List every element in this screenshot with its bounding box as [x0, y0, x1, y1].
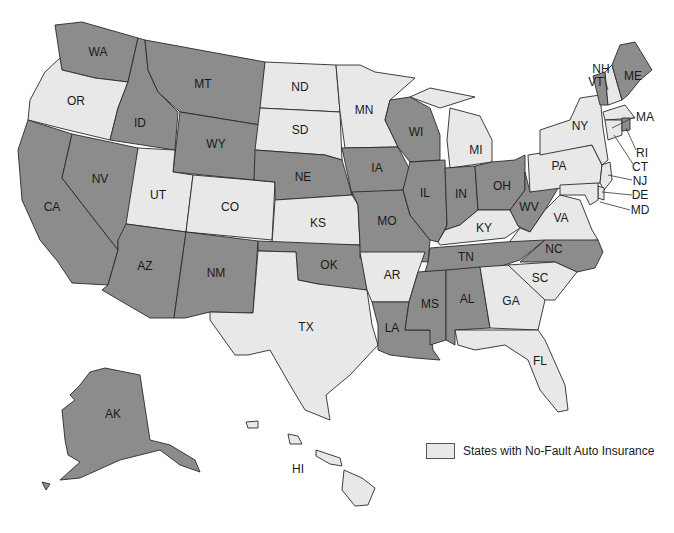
svg-text:MN: MN	[355, 103, 374, 117]
svg-text:WI: WI	[409, 125, 424, 139]
svg-text:WA: WA	[89, 45, 108, 59]
svg-text:NY: NY	[572, 119, 589, 133]
svg-text:CO: CO	[221, 200, 239, 214]
state-DE[interactable]	[598, 186, 604, 200]
svg-text:AR: AR	[384, 268, 401, 282]
svg-text:IL: IL	[420, 186, 430, 200]
svg-text:OH: OH	[493, 179, 511, 193]
svg-text:MT: MT	[194, 77, 212, 91]
svg-text:MI: MI	[469, 143, 482, 157]
svg-text:CA: CA	[44, 200, 61, 214]
svg-text:PA: PA	[551, 159, 566, 173]
legend-swatch	[426, 443, 455, 459]
svg-text:TN: TN	[458, 250, 474, 264]
svg-text:KY: KY	[476, 221, 492, 235]
svg-text:IA: IA	[371, 161, 382, 175]
state-NJ[interactable]	[600, 162, 612, 190]
legend: States with No-Fault Auto Insurance	[426, 443, 654, 459]
state-HI-island-2[interactable]	[288, 434, 302, 444]
svg-text:FL: FL	[533, 354, 547, 368]
svg-text:GA: GA	[502, 294, 519, 308]
state-HI-island-3[interactable]	[316, 450, 342, 466]
svg-text:VT: VT	[588, 75, 604, 89]
svg-text:RI: RI	[636, 146, 648, 160]
svg-text:MD: MD	[631, 203, 650, 217]
svg-text:IN: IN	[455, 187, 467, 201]
svg-text:ND: ND	[291, 80, 309, 94]
legend-label: States with No-Fault Auto Insurance	[463, 444, 654, 458]
svg-text:CT: CT	[632, 160, 649, 174]
svg-text:NV: NV	[92, 172, 109, 186]
svg-text:AK: AK	[105, 407, 121, 421]
svg-text:MO: MO	[377, 214, 396, 228]
svg-text:NE: NE	[295, 170, 312, 184]
svg-text:KS: KS	[310, 216, 326, 230]
svg-text:DE: DE	[632, 188, 649, 202]
state-AK[interactable]	[60, 368, 200, 480]
svg-text:ME: ME	[624, 69, 642, 83]
svg-text:VA: VA	[553, 211, 568, 225]
state-FL[interactable]	[455, 330, 568, 412]
svg-text:TX: TX	[298, 320, 313, 334]
svg-text:UT: UT	[150, 188, 167, 202]
state-CT[interactable]	[605, 120, 622, 140]
svg-text:OK: OK	[320, 258, 337, 272]
svg-text:AL: AL	[460, 292, 475, 306]
state-HI-island-1[interactable]	[246, 421, 258, 428]
svg-text:MA: MA	[636, 110, 654, 124]
svg-text:NH: NH	[592, 62, 609, 76]
svg-text:HI: HI	[292, 462, 304, 476]
state-HI-island-4[interactable]	[342, 470, 375, 506]
svg-text:ID: ID	[134, 116, 146, 130]
svg-text:NJ: NJ	[633, 174, 648, 188]
svg-text:LA: LA	[385, 321, 400, 335]
svg-text:SD: SD	[292, 123, 309, 137]
svg-text:AZ: AZ	[137, 259, 152, 273]
svg-text:NM: NM	[207, 266, 226, 280]
svg-text:MS: MS	[421, 297, 439, 311]
svg-text:WY: WY	[206, 137, 225, 151]
svg-text:WV: WV	[519, 200, 538, 214]
state-AK-island	[42, 482, 50, 490]
svg-text:NC: NC	[545, 242, 563, 256]
svg-text:OR: OR	[67, 94, 85, 108]
svg-text:SC: SC	[532, 271, 549, 285]
